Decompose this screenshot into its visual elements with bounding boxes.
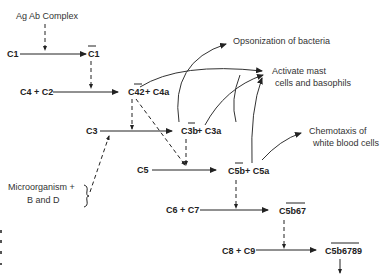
left-edge-marks: [0, 230, 2, 265]
node-c4-c2: C4 + C2: [20, 87, 53, 97]
node-c6-c7: C6 + C7: [166, 205, 199, 215]
effect-opsonization: Opsonization of bacteria: [233, 36, 330, 46]
c3b-opsonization-arrow: [178, 44, 226, 122]
node-c5: C5: [137, 165, 149, 175]
node-c3b: C3b: [181, 126, 199, 136]
c5a-mast-arrow: [252, 78, 262, 163]
effect-chemotaxis-2: white blood cells: [312, 138, 380, 148]
node-c5b6789: C5b6789: [325, 246, 362, 256]
node-c42: C42: [128, 87, 145, 97]
alt-pathway-label-1: Microorganism +: [8, 182, 75, 192]
node-c8-c9: C8 + C9: [222, 246, 255, 256]
c5a-chemotaxis-arrow: [262, 133, 301, 160]
alt-pathway-label-2: B and D: [27, 195, 60, 205]
effect-mast-2: cells and basophils: [275, 78, 352, 88]
alt-pathway-arrow: [90, 136, 109, 192]
node-c5b67: C5b67: [279, 206, 306, 216]
effect-chemotaxis-1: Chemotaxis of: [309, 126, 367, 136]
c5b-curve-up: [234, 75, 240, 122]
node-c1-active: C1: [88, 49, 100, 59]
ag-ab-complex-label: Ag Ab Complex: [16, 11, 79, 21]
complement-cascade-diagram: Ag Ab Complex C1 C1 C4 + C2 C42 + C4a C3…: [0, 0, 385, 275]
effect-mast-1: Activate mast: [272, 66, 327, 76]
alt-pathway-brace: [84, 185, 89, 207]
node-c4a: + C4a: [145, 87, 170, 97]
node-c1: C1: [7, 49, 19, 59]
node-c3a: + C3a: [197, 126, 222, 136]
node-c5a: + C5a: [245, 166, 270, 176]
node-c3: C3: [86, 126, 98, 136]
node-c5b: C5b: [228, 166, 246, 176]
